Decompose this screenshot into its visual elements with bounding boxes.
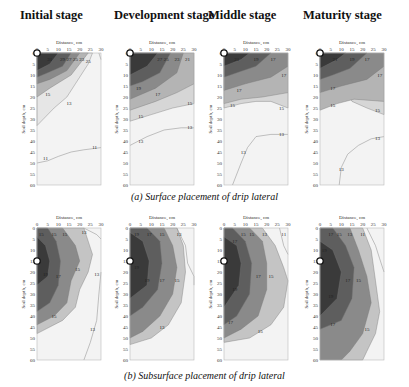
x-tick-label: 30 [286,47,292,52]
y-tick-label: 10 [123,248,129,253]
contour-label: 19 [134,232,140,237]
y-axis-label: Soil depth, cm [21,279,27,308]
x-axis-label: Distance, cm [339,40,365,46]
caption-subsurface: (b) Subsurface placement of drip lateral [0,370,409,381]
y-tick-label: 45 [30,325,36,330]
contour-label: 15 [364,327,370,332]
contour-label: 19 [43,272,49,277]
stage-title-development: Development stage [114,8,214,23]
x-tick-label: 5 [46,222,49,227]
y-tick-label: 30 [123,117,129,122]
x-axis-label: Distance, cm [243,40,269,46]
x-tick-label: 10 [243,47,249,52]
y-tick-label: 45 [313,325,319,330]
contour-label: 15 [330,103,336,108]
x-tick-label: 10 [56,222,62,227]
y-tick-label: 55 [217,347,223,352]
y-tick-label: 20 [30,270,36,275]
y-tick-label: 30 [123,292,129,297]
contour-label: 17 [271,57,277,62]
y-tick-label: 5 [33,62,36,67]
emitter-icon [317,50,323,56]
contour-label: 17 [377,73,383,78]
x-tick-label: 5 [233,47,236,52]
y-tick-label: 20 [217,95,223,100]
y-tick-label: 40 [217,139,223,144]
x-tick-label: 15 [160,47,166,52]
x-tick-label: 30 [192,47,198,52]
y-axis-label: Soil depth, cm [21,104,27,133]
y-tick-label: 35 [313,128,319,133]
contour-label: 13 [94,272,100,277]
contour-label: 17 [232,239,238,244]
x-tick-label: 20 [360,222,366,227]
contour-label: 15 [75,267,81,272]
contour-label: 13 [81,230,87,235]
y-tick-label: 20 [123,270,129,275]
contour-label: 11 [360,232,365,237]
y-tick-label: 10 [30,73,36,78]
contour-label: 13 [90,327,96,332]
y-tick-label: 25 [123,106,129,111]
contour-label: 15 [337,232,343,237]
x-tick-label: 10 [339,47,345,52]
y-tick-label: 30 [313,117,319,122]
contour-label: 31 [47,57,53,62]
y-axis-label: Soil depth, cm [304,279,310,308]
contour-label: 15 [241,232,247,237]
contour-label: 15 [258,329,264,334]
y-tick-label: 15 [313,84,319,89]
contour-label: 15 [187,101,193,106]
x-tick-label: 25 [371,47,377,52]
contour-label: 21 [234,57,240,62]
stage-title-middle: Middle stage [208,8,276,23]
contour-label: 17 [160,278,166,283]
contour-label: 27 [157,57,163,62]
y-tick-label: 30 [30,117,36,122]
x-axis-label: Distance, cm [243,215,269,221]
y-tick-label: 55 [123,347,129,352]
contour-label: 13 [67,101,73,106]
contour-label: 19 [134,265,140,270]
x-tick-label: 25 [275,47,281,52]
y-tick-label: 50 [313,161,319,166]
stage-title-maturity: Maturity stage [303,8,382,23]
x-tick-label: 20 [360,47,366,52]
y-tick-label: 20 [217,270,223,275]
contour-label: 19 [145,278,151,283]
contour-label: 15 [39,232,45,237]
contour-label: 19 [136,86,142,91]
x-tick-label: 10 [149,222,155,227]
x-tick-label: 25 [88,47,94,52]
y-tick-label: 5 [316,237,319,242]
y-tick-label: 10 [123,73,129,78]
contour-label: 15 [249,232,255,237]
y-tick-label: 25 [313,106,319,111]
y-tick-label: 25 [313,281,319,286]
x-tick-label: 5 [329,47,332,52]
contour-label: 27 [67,57,73,62]
contour-label: 21 [185,57,191,62]
x-axis-label: Distance, cm [149,215,175,221]
y-tick-label: 5 [220,237,223,242]
x-tick-label: 20 [264,222,270,227]
y-tick-label: 35 [217,303,223,308]
y-tick-label: 10 [313,248,319,253]
x-tick-label: 15 [160,222,166,227]
y-tick-label: 25 [30,106,36,111]
contour-label: 13 [279,132,285,137]
contour-label: 21 [332,57,338,62]
contour-label: 15 [160,232,166,237]
x-tick-label: 20 [77,222,83,227]
contour-label: 13 [138,139,144,144]
x-axis-label: Distance, cm [339,215,365,221]
x-tick-label: 25 [371,222,377,227]
y-tick-label: 35 [123,303,129,308]
y-tick-label: 50 [313,336,319,341]
x-tick-label: 15 [67,222,73,227]
contour-label: 17 [228,320,234,325]
y-tick-label: 30 [313,292,319,297]
y-tick-label: 40 [313,139,319,144]
y-tick-label: 50 [217,336,223,341]
y-tick-label: 60 [217,183,223,188]
